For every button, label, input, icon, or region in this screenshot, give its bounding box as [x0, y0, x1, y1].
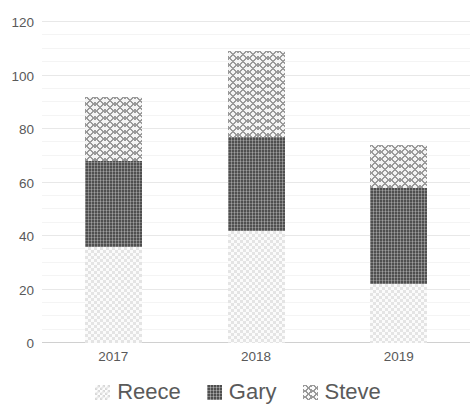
chart-legend: Reece Gary Steve — [0, 381, 476, 403]
legend-item-steve[interactable]: Steve — [303, 381, 381, 403]
y-axis-tick-label: 40 — [0, 229, 34, 244]
x-axis-tick-label: 2019 — [339, 349, 459, 364]
legend-swatch-steve-icon — [303, 385, 318, 400]
stacked-column-chart: 020406080100120 201720182019 Reece Gary … — [0, 0, 476, 416]
y-axis-tick-label: 60 — [0, 175, 34, 190]
x-axis: 201720182019 — [42, 349, 470, 371]
legend-label-gary: Gary — [229, 381, 277, 403]
y-axis-tick-label: 80 — [0, 122, 34, 137]
legend-label-steve: Steve — [325, 381, 381, 403]
legend-item-reece[interactable]: Reece — [95, 381, 181, 403]
y-axis-tick-label: 100 — [0, 68, 34, 83]
y-axis: 020406080100120 — [0, 22, 476, 343]
legend-swatch-reece-icon — [95, 385, 110, 400]
y-axis-tick-label: 20 — [0, 282, 34, 297]
y-axis-tick-label: 120 — [0, 15, 34, 30]
legend-label-reece: Reece — [117, 381, 181, 403]
x-axis-tick-label: 2018 — [196, 349, 316, 364]
y-axis-tick-label: 0 — [0, 336, 34, 351]
legend-item-gary[interactable]: Gary — [207, 381, 277, 403]
legend-swatch-gary-icon — [207, 385, 222, 400]
chart-title — [0, 0, 476, 3]
x-axis-tick-label: 2017 — [53, 349, 173, 364]
